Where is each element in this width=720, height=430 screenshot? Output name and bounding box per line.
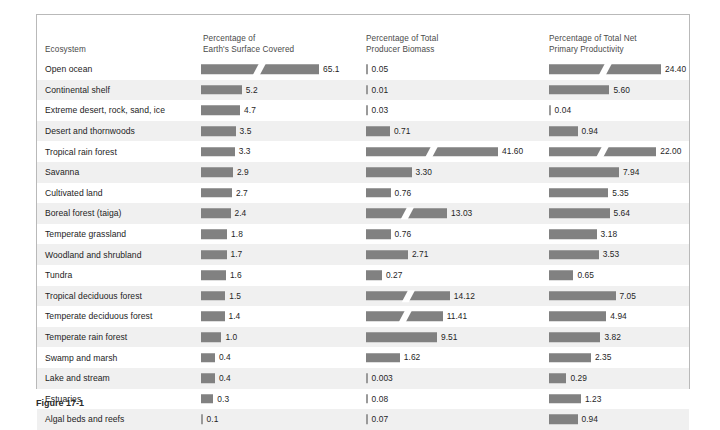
bar-cell: 5.35 [549,183,689,204]
table-row: Algal beds and reefs0.10.070.94 [37,409,689,430]
table-row: Desert and thornwoods3.50.710.94 [37,121,689,142]
bar-value-label: 1.62 [404,353,421,363]
bar-wrapper: 5.2 [201,85,258,95]
bar-value-label: 0.04 [555,105,572,115]
bar-wrapper: 14.12 [366,291,475,301]
bar [549,373,566,383]
bar [201,270,226,280]
bar-wrapper: 3.30 [366,168,432,178]
bar-cell: 1.8 [201,224,364,245]
bar-value-label: 4.94 [610,311,627,321]
bar [549,394,581,404]
bar-value-label: 0.003 [372,373,393,383]
bar [201,168,233,178]
bar-value-label: 3.30 [416,167,433,177]
bar-wrapper: 0.76 [366,229,411,239]
bar-cell: 0.4 [201,347,364,368]
bar-wrapper: 24.40 [549,65,686,75]
bar-cell: 5.64 [549,203,689,224]
bar-cell: 4.7 [201,100,364,121]
column-header-biomass-line2: Producer Biomass [366,45,438,56]
bar-cell: 0.4 [201,368,364,389]
bar-cell: 0.71 [366,121,549,142]
bar [366,394,368,404]
ecosystem-label: Extreme desert, rock, sand, ice [45,105,165,115]
bar [366,65,368,75]
bar-wrapper: 2.4 [201,209,246,219]
bar [201,188,232,198]
table-row: Swamp and marsh0.41.622.35 [37,347,689,368]
bar-wrapper: 1.0 [201,332,237,342]
bar-wrapper: 0.01 [366,85,388,95]
bar-wrapper: 3.3 [201,147,250,157]
bar-wrapper: 2.35 [549,353,611,363]
table-row: Cultivated land2.70.765.35 [37,183,689,204]
bar-value-label: 0.76 [395,188,412,198]
table-row: Open ocean65.10.0524.40 [37,59,689,80]
column-header-surface-line2: Earth's Surface Covered [203,45,294,56]
bar [201,394,213,404]
ecosystem-label: Continental shelf [45,85,110,95]
bar-wrapper: 13.03 [366,209,472,219]
bar-wrapper: 2.7 [201,188,248,198]
bar-value-label: 7.05 [620,291,637,301]
table-row: Tropical rain forest3.341.6022.00 [37,141,689,162]
bar [549,126,578,136]
bar-value-label: 0.71 [394,126,411,136]
bar-cell: 3.30 [366,162,549,183]
bar-value-label: 0.76 [395,229,412,239]
bar-value-label: 2.4 [235,208,247,218]
bar-wrapper: 5.35 [549,188,629,198]
bar-wrapper: 5.60 [549,85,630,95]
bar-cell: 1.6 [201,265,364,286]
bar-wrapper: 4.94 [549,312,627,322]
bar-wrapper: 0.05 [366,65,388,75]
bar [549,291,616,301]
bar-wrapper: 1.6 [201,270,242,280]
bar-value-label: 3.82 [604,332,621,342]
bar-cell: 3.53 [549,244,689,265]
bar-value-label: 22.00 [660,147,681,157]
ecosystem-label: Open ocean [45,64,92,74]
table-row: Savanna2.93.307.94 [37,162,689,183]
column-header-biomass: Percentage of Total Producer Biomass [366,34,438,55]
bar [549,250,599,260]
bar-wrapper: 0.94 [549,126,598,136]
column-header-npp-line2: Primary Productivity [549,45,637,56]
bar-wrapper: 1.8 [201,229,243,239]
bar-value-label: 0.94 [582,414,599,424]
bar [366,270,382,280]
bar-cell: 0.1 [201,409,364,430]
bar-wrapper: 0.4 [201,373,231,383]
ecosystem-label: Savanna [45,167,79,177]
bar [201,373,215,383]
bar [549,188,608,198]
table-row: Continental shelf5.20.015.60 [37,80,689,101]
bar [201,209,231,219]
bar-cell: 7.94 [549,162,689,183]
bar-cell: 3.18 [549,224,689,245]
bar [549,353,591,363]
bar [366,106,368,116]
bar-wrapper: 1.23 [549,394,601,404]
bar-value-label: 0.05 [372,64,389,74]
bar [549,65,661,75]
bar-wrapper: 0.29 [549,373,587,383]
bar [366,168,412,178]
table-row: Estuaries0.30.081.23 [37,389,689,410]
bar [366,415,368,425]
bar-wrapper: 0.1 [201,415,218,425]
bar-wrapper: 3.18 [549,229,617,239]
bar-value-label: 0.1 [207,414,219,424]
bar-value-label: 0.07 [372,414,389,424]
bar-value-label: 2.9 [237,167,249,177]
bar-value-label: 1.4 [229,311,241,321]
bar [549,332,600,342]
ecosystem-label: Algal beds and reefs [45,414,124,424]
bar-cell: 0.94 [549,409,689,430]
bar-value-label: 65.1 [323,64,340,74]
bar-cell: 4.94 [549,306,689,327]
column-header-npp: Percentage of Total Net Primary Producti… [549,34,637,55]
table-row: Temperate grassland1.80.763.18 [37,224,689,245]
column-header-surface: Percentage of Earth's Surface Covered [203,34,294,55]
